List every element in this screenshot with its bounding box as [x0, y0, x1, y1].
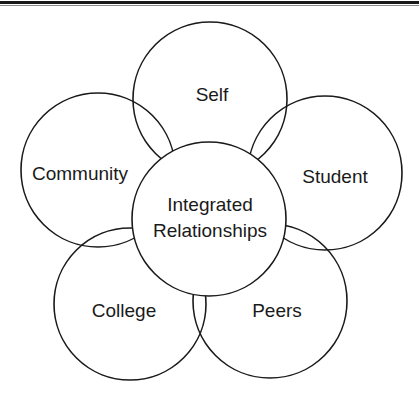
label-college: College	[92, 300, 156, 321]
circle-integrated-relationships	[132, 142, 286, 296]
relationship-diagram: Self Community Student College Peers Int…	[0, 0, 419, 395]
label-center-line-2: Relationships	[153, 220, 267, 241]
label-peers: Peers	[252, 300, 302, 321]
label-student: Student	[302, 166, 368, 187]
label-center-line-1: Integrated	[167, 194, 253, 215]
label-community: Community	[32, 163, 129, 184]
label-self: Self	[196, 84, 229, 105]
